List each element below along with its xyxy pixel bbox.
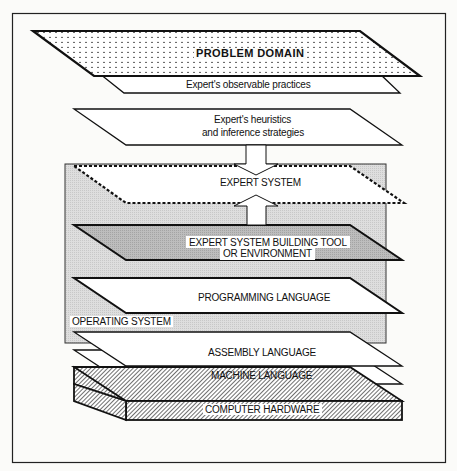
- label-problem-domain: PROBLEM DOMAIN: [194, 48, 306, 59]
- label-programming-language: PROGRAMMING LANGUAGE: [198, 292, 330, 303]
- label-heuristics-line1: Expert's heuristics: [214, 114, 291, 125]
- label-machine-language: MACHINE LANGUAGE: [211, 370, 312, 381]
- label-building-tool-line2: OR ENVIRONMENT: [220, 248, 315, 260]
- label-observable-practices: Expert's observable practices: [186, 79, 311, 90]
- label-computer-hardware: COMPUTER HARDWARE: [203, 404, 322, 415]
- label-expert-system: EXPERT SYSTEM: [220, 177, 301, 188]
- label-operating-system: OPERATING SYSTEM: [70, 316, 173, 327]
- label-heuristics-line2: and inference strategies: [202, 127, 304, 138]
- label-building-tool-line1: EXPERT SYSTEM BUILDING TOOL: [186, 236, 350, 248]
- label-assembly-language: ASSEMBLY LANGUAGE: [208, 347, 316, 358]
